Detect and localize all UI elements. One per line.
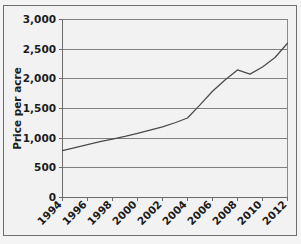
y-tick-label-3000: 3,000 bbox=[23, 13, 56, 25]
data-series bbox=[63, 43, 288, 150]
series-line-0 bbox=[63, 43, 288, 150]
y-tick-label-1000: 1,000 bbox=[23, 132, 56, 144]
x-tick-label-2000: 2000 bbox=[110, 198, 139, 227]
x-tick-label-2008: 2008 bbox=[210, 198, 239, 227]
line-chart: 05001,0001,5002,0002,5003,000 1994199619… bbox=[0, 0, 301, 244]
y-tick-label-2000: 2,000 bbox=[23, 72, 56, 84]
y-axis-title-text: Price per acre bbox=[11, 67, 23, 150]
x-tick-label-2004: 2004 bbox=[160, 198, 189, 227]
x-tick-label-2012: 2012 bbox=[260, 198, 289, 227]
gridlines bbox=[63, 20, 288, 198]
chart-figure: 05001,0001,5002,0002,5003,000 1994199619… bbox=[0, 0, 301, 244]
y-axis-tick-labels: 05001,0001,5002,0002,5003,000 bbox=[23, 13, 56, 203]
x-tick-label-1996: 1996 bbox=[60, 198, 89, 227]
x-tick-label-1998: 1998 bbox=[85, 198, 114, 227]
x-tick-label-2002: 2002 bbox=[135, 198, 164, 227]
y-axis-title: Price per acre bbox=[11, 67, 23, 150]
y-tick-label-500: 500 bbox=[34, 161, 56, 173]
y-tick-label-2500: 2,500 bbox=[23, 43, 56, 55]
y-tick-label-1500: 1,500 bbox=[23, 102, 56, 114]
x-tick-label-2010: 2010 bbox=[235, 198, 264, 227]
x-tick-label-2006: 2006 bbox=[185, 198, 214, 227]
x-axis-tick-labels: 1994199619982000200220042006200820102012 bbox=[35, 198, 289, 227]
y-axis bbox=[59, 19, 63, 198]
